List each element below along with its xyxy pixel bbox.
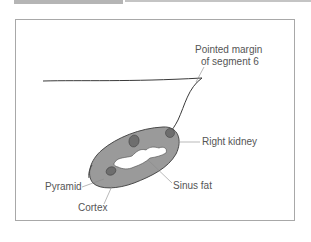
label-pointed-margin-line1: Pointed margin	[195, 44, 262, 56]
kidney-diagram	[0, 0, 311, 242]
pyramid-right	[166, 129, 175, 138]
liver-segment-6-outline	[43, 78, 202, 140]
label-sinus-fat: Sinus fat	[173, 180, 212, 192]
label-pointed-margin-line2: of segment 6	[201, 56, 259, 68]
label-right-kidney: Right kidney	[202, 136, 257, 148]
label-cortex: Cortex	[78, 202, 107, 214]
label-pyramid: Pyramid	[45, 181, 82, 193]
